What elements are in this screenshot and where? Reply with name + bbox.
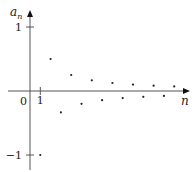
data-point xyxy=(39,154,41,156)
y-axis-label: an xyxy=(10,5,22,21)
data-point xyxy=(50,58,52,60)
axes xyxy=(8,10,190,170)
data-points xyxy=(39,58,175,156)
data-point xyxy=(70,74,72,76)
x-axis-label: n xyxy=(181,94,189,108)
origin-label: 0 xyxy=(20,95,27,108)
data-point xyxy=(111,82,113,84)
y-axis-arrow xyxy=(27,10,33,17)
y-tick-label: 1 xyxy=(15,21,22,34)
data-point xyxy=(163,95,165,97)
chart: 11−1 an n 0 xyxy=(0,0,196,172)
data-point xyxy=(60,111,62,113)
data-point xyxy=(132,84,134,86)
data-point xyxy=(122,97,124,99)
data-point xyxy=(153,85,155,87)
data-point xyxy=(91,79,93,81)
x-tick-label: 1 xyxy=(37,94,44,107)
data-point xyxy=(173,85,175,87)
data-point xyxy=(142,96,144,98)
data-point xyxy=(80,103,82,105)
y-tick-label: −1 xyxy=(6,149,22,162)
data-point xyxy=(101,99,103,101)
